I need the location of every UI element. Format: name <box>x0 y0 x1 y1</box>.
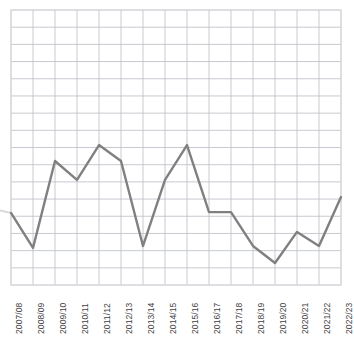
minor-gridlines <box>11 10 341 285</box>
series-lead-in-segment <box>0 210 11 213</box>
series-line <box>11 145 341 263</box>
